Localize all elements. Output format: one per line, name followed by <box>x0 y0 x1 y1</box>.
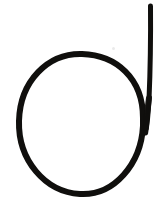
paper-background <box>0 0 162 214</box>
scan-speck <box>112 47 115 50</box>
stem-bowl-junction <box>146 98 149 128</box>
glyph-canvas: Hand-drawn lowercase letter d: a large o… <box>0 0 162 214</box>
handwritten-glyph-d <box>0 0 162 214</box>
